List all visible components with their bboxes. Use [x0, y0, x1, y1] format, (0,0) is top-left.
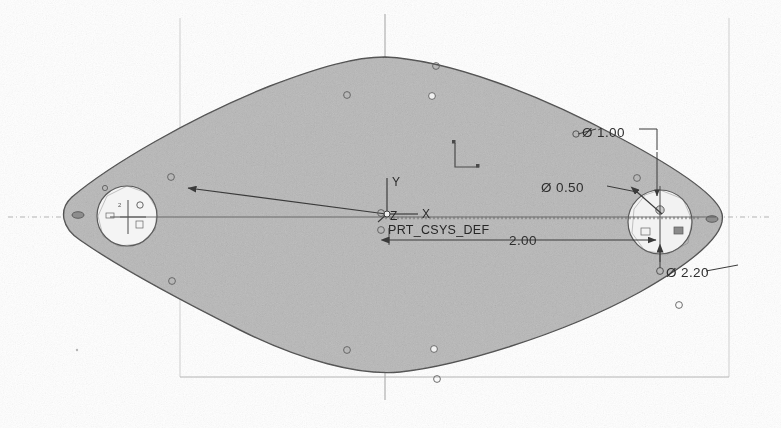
csys-axis-y-label: Y: [392, 175, 400, 189]
csys-name-label: PRT_CSYS_DEF: [388, 223, 489, 237]
view-orientation-marker-dot-top: [452, 140, 456, 144]
scan-artifact-speck: [76, 349, 78, 351]
left-edge-datum-pill: [72, 212, 84, 219]
hub-left: 2: [97, 186, 157, 246]
cad-drawing-canvas: 2: [0, 0, 781, 428]
hub-right-tag-box-2: [674, 227, 683, 234]
vertex-marker: [429, 93, 436, 100]
view-orientation-marker-dot-right: [476, 164, 480, 168]
dim-1-00-text: Ø 1.00: [582, 125, 625, 140]
dim-0-50-text: Ø 0.50: [541, 180, 584, 195]
vertex-marker: [431, 346, 438, 353]
csys-axis-z-label: Z: [390, 209, 397, 223]
csys-axis-x-label: X: [422, 207, 430, 221]
cad-drawing-svg: 2: [0, 0, 781, 428]
dim-2-20-text: Ø 2.20: [666, 265, 709, 280]
dim-2-00-text: 2.00: [509, 233, 537, 248]
